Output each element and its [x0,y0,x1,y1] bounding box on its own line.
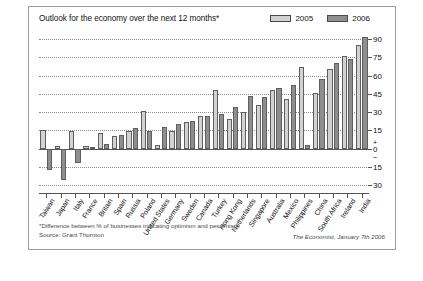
bar [205,116,210,149]
bar-group [82,33,96,185]
y-axis-tick-mark [368,185,372,186]
bar-group [312,33,326,185]
bar [284,99,289,149]
bar-group [182,33,196,185]
bar [90,147,95,149]
bar-group [226,33,240,185]
bar [61,149,66,181]
y-axis-tick-label: 75 [373,53,382,62]
chart-header: Outlook for the economy over the next 12… [29,7,395,33]
bar [69,131,74,148]
bar [83,146,88,148]
bar [147,131,152,148]
y-axis-tick-mark [368,57,372,58]
bar [334,63,339,148]
bar-group [68,33,82,185]
y-axis-tick-label: 30 [373,108,382,117]
y-axis-tick-label: 45 [373,89,382,98]
bar [270,90,275,148]
bar-group [211,33,225,185]
bar [219,114,224,148]
bar-group [197,33,211,185]
bar [112,136,117,148]
bar [104,144,109,149]
bar-group [269,33,283,185]
bar [305,145,310,149]
source-attribution: The Economist, January 7th 2006 [292,233,385,240]
bar [313,93,318,149]
legend-item-2005: 2005 [270,14,313,23]
bar [75,149,80,164]
legend-label-2006: 2006 [352,14,370,23]
y-axis-tick-label: 15 [373,126,382,135]
y-axis-tick-mark [368,149,372,150]
bar [169,131,174,148]
bar [348,59,353,149]
x-axis-label: India [357,197,373,215]
bar-group [240,33,254,185]
y-axis-tick-label: 15 [373,162,382,171]
legend-swatch-2005 [270,15,291,22]
y-axis-tick-mark [368,94,372,95]
y-axis-sign-plus: + [373,138,377,145]
bar [162,127,167,149]
bar [184,122,189,149]
bar-group [340,33,354,185]
y-axis-tick-mark [368,112,372,113]
bar [233,107,238,148]
bar [55,146,60,148]
gridline [39,185,369,186]
bar-group [39,33,53,185]
bar-group [154,33,168,185]
y-axis-tick-mark [368,130,372,131]
bar [198,116,203,149]
bar [327,69,332,148]
bar-group [168,33,182,185]
bar-group [96,33,110,185]
bar [126,131,131,148]
chart-title: Outlook for the economy over the next 12… [39,14,219,23]
bar [276,88,281,149]
bar [291,85,296,148]
legend-swatch-2006 [327,15,348,22]
y-axis: 90756045301501530+– [373,33,403,185]
y-axis-tick-label: 60 [373,71,382,80]
chart-legend: 2005 2006 [270,14,370,23]
bar [98,133,103,149]
bar [248,96,253,148]
bar [342,56,347,148]
bar [119,135,124,148]
plot-area [39,33,369,185]
chart-figure: Outlook for the economy over the next 12… [28,6,396,250]
bar [356,45,361,148]
chart-footnote: *Difference between % of businesses indi… [39,221,240,240]
bar [155,145,160,149]
bar [227,119,232,148]
footnote-line-2: Source: Grant Thornton [39,230,240,240]
bar-group [326,33,340,185]
legend-label-2005: 2005 [295,14,313,23]
bar [262,97,267,148]
bar [47,149,52,171]
bar-group [283,33,297,185]
x-axis-line [39,193,369,194]
legend-item-2006: 2006 [327,14,370,23]
bar-group [111,33,125,185]
y-axis-tick-label: 30 [373,181,382,190]
bar [319,79,324,148]
bar [40,130,45,148]
y-axis-sign-minus: – [373,152,377,159]
bar-group [53,33,67,185]
bar [362,37,367,149]
bars-container [39,33,369,185]
bar [190,121,195,149]
bar-group [254,33,268,185]
y-axis-tick-label: 90 [373,35,382,44]
bar [141,111,146,149]
footnote-line-1: *Difference between % of businesses indi… [39,221,240,231]
y-axis-tick-mark [368,167,372,168]
bar-group [139,33,153,185]
y-axis-tick-mark [368,76,372,77]
bar [241,112,246,148]
bar [299,67,304,148]
